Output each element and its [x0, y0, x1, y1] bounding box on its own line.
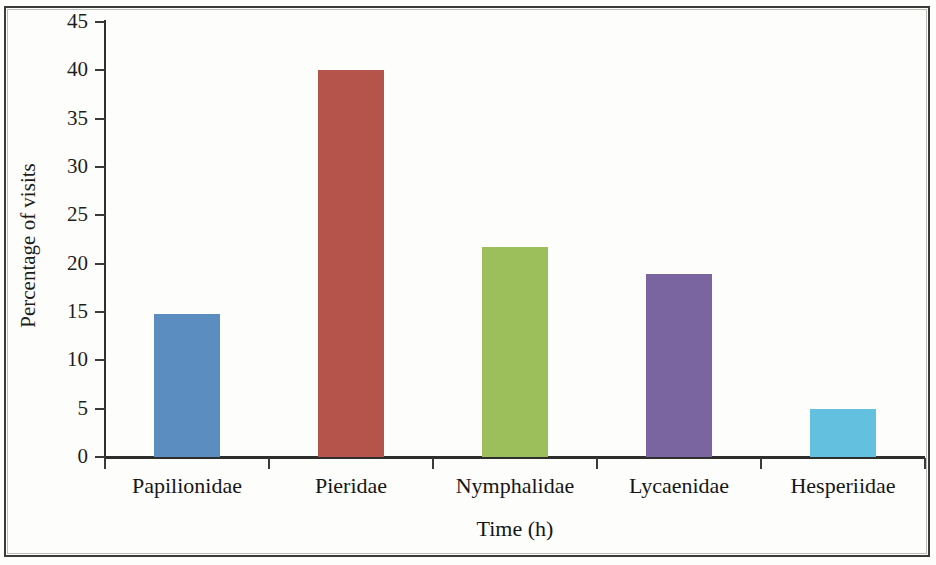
y-axis-line [104, 20, 106, 459]
x-axis-tick [596, 458, 598, 469]
y-axis-tick [95, 166, 105, 168]
bar [318, 70, 384, 457]
y-axis-tick-label: 40 [46, 59, 88, 80]
bar [810, 409, 876, 457]
y-axis-tick-label: 5 [46, 398, 88, 419]
y-axis-tick [95, 408, 105, 410]
x-axis-category-label: Hesperiidae [761, 474, 925, 498]
bar [482, 247, 548, 457]
y-axis-tick [95, 21, 105, 23]
plot-area: 051015202530354045 PapilionidaePieridaeN… [0, 0, 936, 565]
x-axis-tick [104, 458, 106, 469]
y-axis-tick-label: 0 [46, 446, 88, 467]
y-axis-tick [95, 214, 105, 216]
x-axis-tick [432, 458, 434, 469]
y-axis-tick-label: 45 [46, 11, 88, 32]
x-axis-category-label: Nymphalidae [433, 474, 597, 498]
y-axis-tick [95, 69, 105, 71]
chart-figure: 051015202530354045 PapilionidaePieridaeN… [0, 0, 936, 565]
x-axis-tick [924, 458, 926, 469]
y-axis-tick-label: 20 [46, 253, 88, 274]
y-axis-tick [95, 359, 105, 361]
y-axis-tick-label: 10 [46, 349, 88, 370]
y-axis-tick [95, 263, 105, 265]
bar [154, 314, 220, 457]
x-axis-tick [760, 458, 762, 469]
bar [646, 274, 712, 457]
x-axis-title: Time (h) [105, 516, 925, 542]
x-axis-category-label: Papilionidae [105, 474, 269, 498]
y-axis-tick-label: 15 [46, 301, 88, 322]
x-axis-tick [268, 458, 270, 469]
y-axis-tick-label: 30 [46, 156, 88, 177]
y-axis-tick-label: 25 [46, 204, 88, 225]
y-axis-title: Percentage of visits [16, 146, 41, 346]
x-axis-category-label: Pieridae [269, 474, 433, 498]
y-axis-tick [95, 311, 105, 313]
x-axis-category-label: Lycaenidae [597, 474, 761, 498]
y-axis-tick-label: 35 [46, 108, 88, 129]
y-axis-tick [95, 118, 105, 120]
